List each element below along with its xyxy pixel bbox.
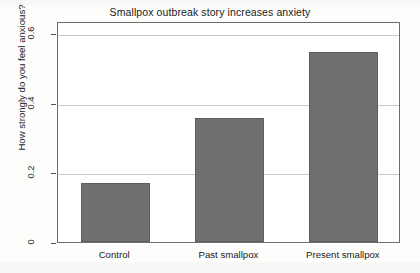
- bar: [309, 52, 378, 242]
- y-tick-label: 0.6: [26, 18, 36, 48]
- y-tick-mark: [51, 173, 56, 174]
- y-tick-label: 0.2: [26, 157, 36, 187]
- y-tick-label: 0.4: [26, 88, 36, 118]
- y-tick-mark: [51, 243, 56, 244]
- chart-title: Smallpox outbreak story increases anxiet…: [0, 6, 420, 18]
- plot-area: [57, 22, 400, 243]
- x-category-label: Past smallpox: [171, 249, 285, 260]
- y-axis-label: How strongly do you feel anxious?: [16, 0, 27, 173]
- bar: [195, 118, 264, 242]
- bar: [81, 183, 150, 242]
- gridline: [58, 35, 399, 36]
- x-category-label: Control: [57, 249, 171, 260]
- y-tick-mark: [51, 34, 56, 35]
- x-category-label: Present smallpox: [286, 249, 400, 260]
- y-tick-label: 0: [26, 227, 36, 257]
- chart-figure: Smallpox outbreak story increases anxiet…: [0, 0, 420, 273]
- y-tick-mark: [51, 104, 56, 105]
